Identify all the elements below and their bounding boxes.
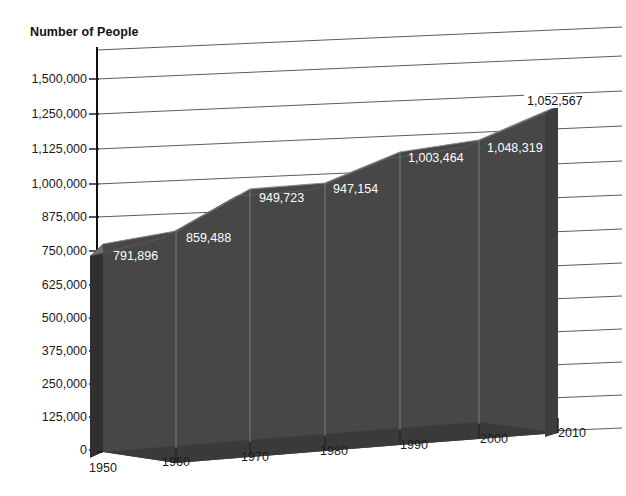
y-axis-label: 0	[12, 443, 87, 457]
x-axis-label: 1950	[89, 461, 117, 475]
y-axis-label: 875,000	[12, 210, 87, 224]
y-axis-label: 1,250,000	[12, 107, 87, 121]
data-label: 947,154	[333, 182, 378, 196]
y-axis-label: 250,000	[12, 377, 87, 391]
y-axis-label: 1,125,000	[12, 142, 87, 156]
area-front-face	[103, 106, 558, 463]
gridline	[97, 56, 622, 79]
y-axis-label: 500,000	[12, 311, 87, 325]
data-label: 1,048,319	[487, 141, 543, 155]
data-label: 1,003,464	[408, 151, 464, 165]
data-label: 791,896	[113, 249, 158, 263]
y-axis-label: 625,000	[12, 278, 87, 292]
x-axis-label: 1990	[400, 438, 428, 452]
y-axis-label: 1,500,000	[12, 72, 87, 86]
data-label: 1,052,567	[524, 94, 586, 108]
x-axis-label: 1970	[241, 450, 269, 464]
data-label: 949,723	[259, 191, 304, 205]
y-axis-label: 125,000	[12, 410, 87, 424]
chart-canvas	[0, 0, 626, 496]
x-axis-label: 1980	[320, 444, 348, 458]
data-label: 859,488	[186, 231, 231, 245]
x-axis-label: 2000	[480, 432, 508, 446]
x-axis-label: 1960	[162, 455, 190, 469]
gridline	[97, 27, 622, 50]
y-axis-label: 1,000,000	[12, 177, 87, 191]
x-axis-label: 2010	[558, 426, 586, 440]
area-left-face	[90, 244, 103, 458]
chart-container: Number of People	[0, 0, 626, 496]
y-axis-label: 375,000	[12, 344, 87, 358]
area-right-face	[545, 106, 558, 437]
y-axis-label: 750,000	[12, 244, 87, 258]
